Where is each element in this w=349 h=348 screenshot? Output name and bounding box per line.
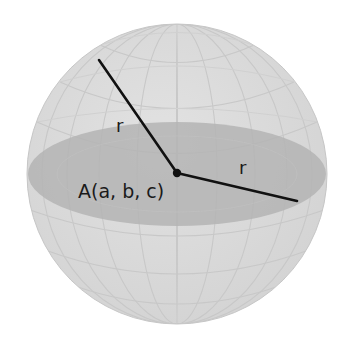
center-label: A(a, b, c): [78, 180, 164, 202]
radius-label-upper: r: [116, 115, 124, 136]
sphere-diagram: r r A(a, b, c): [0, 0, 349, 348]
center-point: [173, 169, 181, 177]
radius-label-right: r: [239, 157, 247, 178]
